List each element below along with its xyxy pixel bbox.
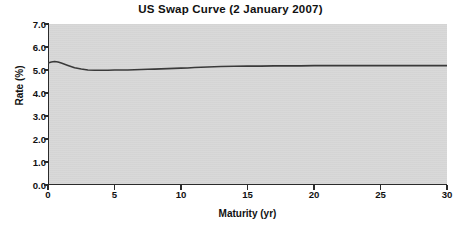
x-axis-title: Maturity (yr)	[48, 208, 447, 219]
x-tick-label: 20	[309, 189, 320, 200]
y-axis-title: Rate (%)	[14, 36, 25, 136]
chart-title: US Swap Curve (2 January 2007)	[0, 3, 461, 15]
x-tick-mark	[446, 185, 447, 190]
x-tick-mark	[114, 185, 115, 190]
x-tick-mark	[380, 185, 381, 190]
x-tick-mark	[47, 185, 48, 190]
x-tick-label: 25	[375, 189, 386, 200]
x-tick-mark	[313, 185, 314, 190]
x-tick-label: 30	[442, 189, 453, 200]
x-tick-mark	[180, 185, 181, 190]
y-tick-mark	[44, 115, 49, 116]
chart-figure: US Swap Curve (2 January 2007) 0.01.02.0…	[0, 0, 461, 236]
y-tick-mark	[44, 161, 49, 162]
y-tick-label: 7.0	[10, 19, 46, 30]
y-tick-label: 1.0	[10, 157, 46, 168]
x-tick-label: 15	[242, 189, 253, 200]
y-tick-mark	[44, 138, 49, 139]
y-tick-mark	[44, 23, 49, 24]
x-tick-label: 0	[45, 189, 50, 200]
y-tick-mark	[44, 92, 49, 93]
x-tick-label: 5	[112, 189, 117, 200]
y-tick-mark	[44, 46, 49, 47]
swap-curve-line	[48, 24, 447, 185]
y-tick-mark	[44, 69, 49, 70]
x-axis-tick-labels: 051015202530	[0, 189, 461, 205]
x-tick-mark	[247, 185, 248, 190]
x-tick-label: 10	[176, 189, 187, 200]
